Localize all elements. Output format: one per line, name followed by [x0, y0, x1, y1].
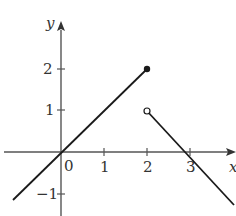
x-tick-label-2: 2 — [143, 158, 153, 176]
y-tick-label-1: 1 — [45, 101, 55, 119]
segment-left — [13, 69, 147, 200]
piecewise-function-graph: 0 1 2 3 2 1 −1 y x — [0, 0, 236, 216]
x-tick-label-1: 1 — [100, 158, 110, 176]
y-axis-arrow-icon — [57, 21, 65, 31]
segment-right — [147, 111, 234, 205]
open-dot-marker — [144, 108, 150, 114]
x-axis-label: x — [229, 158, 236, 176]
closed-dot-marker — [144, 66, 150, 72]
ticks — [57, 69, 190, 194]
y-tick-label-neg1: −1 — [36, 185, 58, 203]
origin-label: 0 — [64, 157, 74, 175]
y-axis-label: y — [45, 14, 55, 32]
y-tick-label-2: 2 — [43, 60, 53, 78]
